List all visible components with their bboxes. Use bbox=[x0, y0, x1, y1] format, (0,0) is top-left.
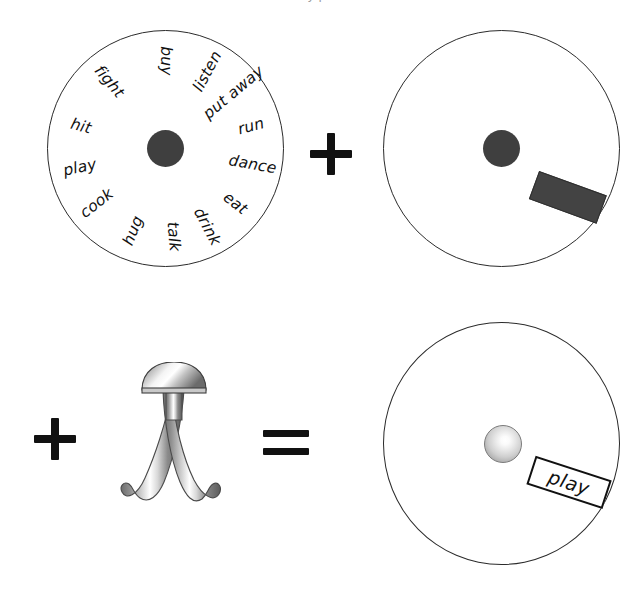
plus-bar-vertical bbox=[327, 133, 335, 175]
wheel-word-label: listen bbox=[189, 47, 225, 94]
wheel-word-label: buy bbox=[157, 46, 175, 75]
pointer-disc-hub[interactable] bbox=[483, 130, 520, 167]
wheel-word-label: fight bbox=[90, 61, 127, 101]
verb-wheel-hub[interactable] bbox=[147, 130, 184, 167]
wheel-word-label: eat bbox=[219, 188, 250, 218]
hook-tool-graphic bbox=[118, 362, 234, 514]
wheel-word-label: talk bbox=[163, 221, 184, 252]
wheel-word[interactable]: cook bbox=[96, 180, 136, 217]
hook-dome-base bbox=[142, 388, 206, 393]
wheel-word[interactable]: fight bbox=[95, 81, 132, 121]
equals-operator: = bbox=[263, 430, 309, 458]
wheel-word-label: cook bbox=[76, 184, 116, 221]
plus-operator-top: + bbox=[310, 133, 352, 175]
equals-bar-top bbox=[263, 430, 309, 437]
wheel-word[interactable]: drink bbox=[191, 226, 226, 270]
hook-dome-cap bbox=[142, 362, 206, 390]
hook-tool[interactable] bbox=[118, 362, 234, 514]
wheel-word[interactable]: run bbox=[251, 119, 281, 143]
wheel-word[interactable]: put away bbox=[233, 45, 301, 106]
figure-canvas: y p t buylistenput awayrundanceeatdrinkt… bbox=[0, 0, 642, 603]
equals-bar-bottom bbox=[263, 448, 309, 455]
wheel-word-label: drink bbox=[189, 204, 224, 248]
wheel-word[interactable]: hit bbox=[76, 126, 101, 149]
plus-bar-vertical bbox=[51, 418, 59, 460]
plus-operator-bottom: + bbox=[34, 418, 76, 460]
result-disc-hub[interactable] bbox=[484, 425, 522, 463]
pointer-disc-panel bbox=[383, 30, 620, 267]
verb-wheel-panel: buylistenput awayrundanceeatdrinktalkhug… bbox=[47, 30, 284, 267]
wheel-word[interactable]: eat bbox=[224, 203, 255, 233]
wheel-word-label: run bbox=[235, 114, 265, 138]
wheel-word-label: play bbox=[61, 154, 98, 179]
wheel-word-label: hug bbox=[119, 213, 147, 248]
wheel-word[interactable]: buy bbox=[148, 61, 166, 90]
wheel-word[interactable]: dance bbox=[249, 164, 300, 190]
wheel-word-label: hit bbox=[68, 114, 93, 137]
result-disc-panel: play bbox=[383, 322, 620, 569]
caption-fragment: y p t bbox=[0, 0, 642, 2]
wheel-word[interactable]: hug bbox=[133, 202, 161, 237]
wheel-word[interactable]: listen bbox=[207, 33, 243, 80]
wheel-word[interactable]: play bbox=[79, 160, 116, 185]
wheel-word-label: dance bbox=[227, 151, 278, 177]
wheel-word[interactable]: talk bbox=[155, 236, 176, 267]
